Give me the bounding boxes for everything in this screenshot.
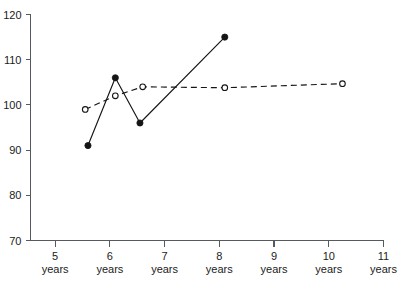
chart-plot-area: 708090100110120 5years6years7years8years… [0,0,400,281]
data-point-open [222,85,228,91]
data-point-open [82,107,88,113]
chart-container: 708090100110120 5years6years7years8years… [0,0,400,281]
y-tick-label: 100 [3,99,21,111]
x-tick-unit-label: years [151,263,178,275]
x-tick-unit-label: years [261,263,288,275]
data-point-filled [137,120,143,126]
data-point-filled [85,142,91,148]
data-point-open [113,93,119,99]
x-axis: 5years6years7years8years9years10years11y… [31,241,398,275]
y-tick-label: 120 [3,9,21,21]
dashed-open-series-line [85,84,342,110]
data-point-open [140,84,146,90]
x-tick-unit-label: years [206,263,233,275]
x-tick-label: 10 [323,250,335,262]
y-tick-label: 80 [9,189,21,201]
solid-filled-series-line [88,37,225,145]
y-tick-label: 70 [9,235,21,247]
data-point-open [340,81,346,87]
y-tick-label: 110 [4,54,22,66]
x-tick-unit-label: years [96,263,123,275]
data-point-filled [112,75,118,81]
y-tick-label: 90 [9,144,21,156]
x-tick-label: 7 [162,250,168,262]
x-tick-unit-label: years [315,263,342,275]
data-series-group [82,34,345,149]
data-point-filled [222,34,228,40]
x-tick-label: 5 [52,250,58,262]
y-axis: 708090100110120 [3,9,30,247]
x-tick-label: 9 [271,250,277,262]
x-tick-unit-label: years [42,263,69,275]
x-tick-label: 8 [216,250,222,262]
x-tick-unit-label: years [370,263,397,275]
x-tick-label: 11 [378,250,389,262]
x-tick-label: 6 [107,250,113,262]
